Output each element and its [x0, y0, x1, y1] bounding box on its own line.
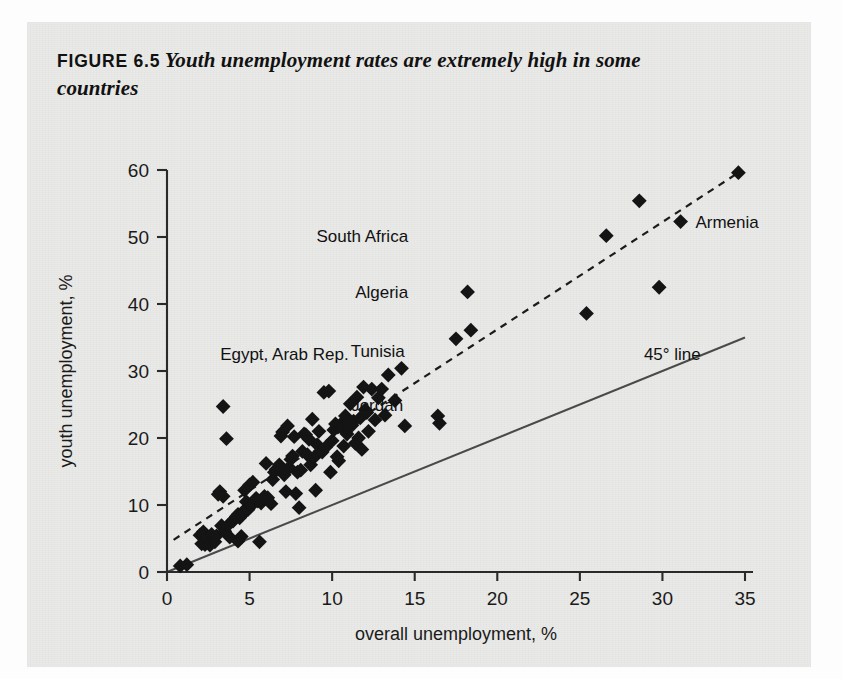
point-annotation: Tunisia	[351, 342, 406, 361]
chart-canvas: 051015202530350102030405060 South Africa…	[0, 0, 843, 679]
point-annotation: 45° line	[644, 345, 701, 364]
data-point	[460, 285, 475, 300]
data-point	[449, 331, 464, 346]
data-point	[323, 465, 338, 480]
x-tick-label: 25	[569, 588, 590, 609]
data-point	[397, 419, 412, 434]
x-tick-label: 30	[652, 588, 673, 609]
x-axis-title: overall unemployment, %	[355, 624, 557, 644]
data-point	[312, 424, 327, 439]
point-annotation: Egypt, Arab Rep.	[220, 345, 349, 364]
scatter-chart: 051015202530350102030405060 South Africa…	[0, 0, 843, 679]
data-point	[599, 228, 614, 243]
data-point	[463, 323, 478, 338]
y-tick-label: 0	[138, 562, 149, 583]
y-tick-label: 10	[128, 495, 149, 516]
data-point	[305, 412, 320, 427]
y-tick-label: 30	[128, 361, 149, 382]
point-annotation: Armenia	[695, 213, 759, 232]
data-point	[308, 483, 323, 498]
data-point	[394, 361, 409, 376]
data-point	[731, 165, 746, 180]
x-tick-label: 35	[734, 588, 755, 609]
y-tick-label: 20	[128, 428, 149, 449]
data-points-group	[173, 165, 746, 573]
data-point	[652, 280, 667, 295]
y-tick-label: 50	[128, 227, 149, 248]
45-degree-line	[167, 338, 745, 573]
y-axis-title: youth unemployment, %	[56, 274, 76, 467]
figure-page: FIGURE 6.5 Youth unemployment rates are …	[0, 0, 843, 679]
x-tick-label: 10	[322, 588, 343, 609]
data-point	[292, 500, 307, 515]
data-point	[219, 431, 234, 446]
annotations-group: South AfricaArmeniaAlgeriaTunisiaEgypt, …	[220, 213, 759, 415]
y-tick-label: 40	[128, 294, 149, 315]
point-annotation: Algeria	[355, 283, 408, 302]
point-annotation: South Africa	[316, 227, 408, 246]
reference-lines-group	[167, 173, 745, 572]
data-point	[288, 486, 303, 501]
x-tick-label: 20	[487, 588, 508, 609]
x-tick-label: 5	[244, 588, 255, 609]
data-point	[632, 193, 647, 208]
data-point	[381, 368, 396, 383]
data-point	[216, 399, 231, 414]
x-tick-label: 0	[162, 588, 173, 609]
point-annotation: Jordan	[351, 396, 403, 415]
data-point	[673, 214, 688, 229]
y-tick-label: 60	[128, 160, 149, 181]
x-tick-label: 15	[404, 588, 425, 609]
data-point	[579, 306, 594, 321]
